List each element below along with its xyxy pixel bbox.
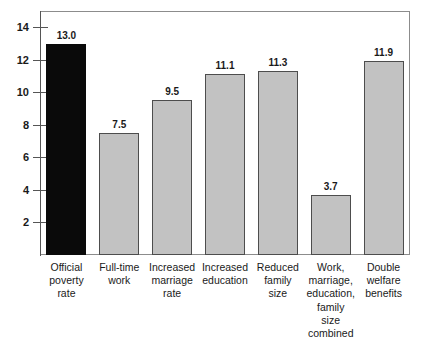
bar bbox=[46, 44, 86, 255]
x-axis-label-line: size bbox=[304, 314, 357, 327]
y-axis-tick-label: 8 bbox=[0, 120, 29, 131]
x-axis-label-line: marriage, bbox=[304, 274, 357, 287]
x-axis-label: Officialpovertyrate bbox=[40, 261, 93, 301]
bar-value-label: 7.5 bbox=[89, 120, 149, 130]
bar-value-label: 11.9 bbox=[354, 48, 414, 58]
x-axis-label-line: Official bbox=[40, 261, 93, 274]
bar-value-label: 11.3 bbox=[248, 58, 308, 68]
x-axis-label-line: Double bbox=[357, 261, 410, 274]
x-axis-label-line: family bbox=[304, 301, 357, 314]
bar bbox=[364, 61, 404, 255]
y-axis-tick bbox=[33, 125, 41, 126]
y-axis-tick-label: 14 bbox=[0, 22, 29, 33]
y-axis-tick-label: 4 bbox=[0, 185, 29, 196]
y-axis-tick bbox=[33, 222, 41, 223]
x-axis-label-line: rate bbox=[146, 287, 199, 300]
x-axis-label: Doublewelfarebenefits bbox=[357, 261, 410, 301]
x-axis-label: Work,marriage,education,familysizecombin… bbox=[304, 261, 357, 338]
y-axis-line bbox=[40, 11, 41, 256]
x-axis-label-line: work bbox=[93, 274, 146, 287]
y-axis-tick-label: 10 bbox=[0, 87, 29, 98]
bar-value-label: 13.0 bbox=[36, 31, 96, 41]
x-axis-label-line: Work, bbox=[304, 261, 357, 274]
y-axis-tick bbox=[33, 157, 41, 158]
x-axis-label-line: Full-time bbox=[93, 261, 146, 274]
y-axis-tick bbox=[33, 27, 41, 28]
x-axis-label-line: benefits bbox=[357, 287, 410, 300]
x-axis-label-line: poverty bbox=[40, 274, 93, 287]
x-axis-label: Increasedmarriagerate bbox=[146, 261, 199, 301]
x-axis-label-line: family bbox=[251, 274, 304, 287]
y-axis-tick-label: 2 bbox=[0, 217, 29, 228]
x-axis-label-line: education, bbox=[304, 287, 357, 300]
bar-chart: 2468101214 13.07.59.511.111.33.711.9 Off… bbox=[0, 0, 421, 338]
bar bbox=[205, 74, 245, 255]
x-axis-label-line: Reduced bbox=[251, 261, 304, 274]
x-axis-label: Increasededucation bbox=[199, 261, 252, 287]
y-axis-tick bbox=[33, 60, 41, 61]
x-axis-label-line: Increased bbox=[199, 261, 252, 274]
y-axis-tick bbox=[33, 92, 41, 93]
y-axis-tick bbox=[33, 190, 41, 191]
bar bbox=[258, 71, 298, 255]
x-axis-label-line: education bbox=[199, 274, 252, 287]
x-axis-label-line: welfare bbox=[357, 274, 410, 287]
x-axis-label: Full-timework bbox=[93, 261, 146, 287]
x-axis-label-line: marriage bbox=[146, 274, 199, 287]
y-axis-tick-label: 6 bbox=[0, 152, 29, 163]
bar-value-label: 3.7 bbox=[301, 182, 361, 192]
y-axis-tick-label: 12 bbox=[0, 55, 29, 66]
x-axis-label-line: size bbox=[251, 287, 304, 300]
bar bbox=[311, 195, 351, 255]
bar bbox=[99, 133, 139, 255]
bar-value-label: 9.5 bbox=[142, 87, 202, 97]
x-axis-label-line: rate bbox=[40, 287, 93, 300]
x-axis-label-line: combined bbox=[304, 327, 357, 338]
bar bbox=[152, 100, 192, 255]
x-axis-label: Reducedfamilysize bbox=[251, 261, 304, 301]
bar-value-label: 11.1 bbox=[195, 61, 255, 71]
x-axis-label-line: Increased bbox=[146, 261, 199, 274]
y-axis-tick-inner bbox=[41, 27, 48, 28]
